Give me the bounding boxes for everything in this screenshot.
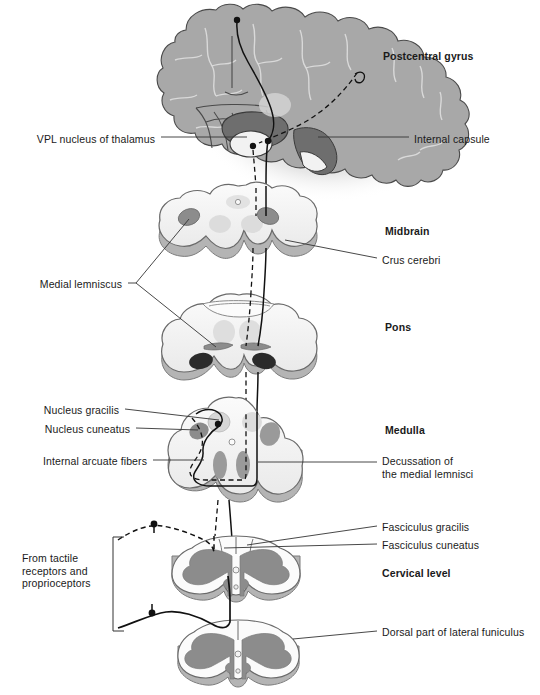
nucleus-gracilis-mirror — [242, 412, 262, 432]
tract-dashed-medulla-to-cord — [215, 500, 218, 536]
pontine-nucleus-right — [239, 320, 261, 344]
pyramid-left — [213, 451, 227, 479]
midbrain-section — [159, 182, 317, 292]
central-canal-upper — [233, 567, 239, 573]
pontine-nucleus-left — [213, 320, 235, 344]
vpl-synapse-dot-dashed — [250, 143, 256, 149]
label-internal-arcuate-fibers: Internal arcuate fibers — [0, 455, 147, 468]
label-vpl-nucleus: VPL nucleus of thalamus — [0, 133, 155, 146]
label-fasciculus-cuneatus: Fasciculus cuneatus — [382, 539, 479, 552]
label-midbrain: Midbrain — [385, 225, 430, 238]
label-medial-lemniscus: Medial lemniscus — [0, 278, 122, 291]
anterior-fissure-vessel-lower — [236, 669, 240, 673]
corona-radiata — [259, 93, 291, 117]
label-postcentral-gyrus: Postcentral gyrus — [383, 50, 473, 63]
label-pons: Pons — [385, 321, 411, 334]
label-nucleus-cuneatus: Nucleus cuneatus — [0, 423, 130, 436]
red-nucleus-left — [209, 215, 231, 233]
label-dorsal-lateral-funiculus: Dorsal part of lateral funiculus — [382, 626, 524, 639]
cervical-cord-upper — [118, 521, 300, 602]
central-canal-lower — [235, 651, 241, 657]
label-cervical-level: Cervical level — [382, 567, 451, 580]
anatomy-figure: Postcentral gyrus VPL nucleus of thalamu… — [0, 0, 540, 695]
leader-dorsal-funiculus — [293, 631, 377, 639]
gracile-synapse-dot — [215, 421, 221, 427]
dorsal-root-ganglion-dot-upper — [151, 521, 158, 528]
label-fasciculus-gracilis: Fasciculus gracilis — [382, 521, 469, 534]
leader-fasciculus-gracilis — [247, 526, 377, 545]
central-canal-medulla — [229, 439, 235, 445]
label-medulla: Medulla — [385, 424, 425, 437]
anterior-fissure-vessel-upper — [234, 585, 238, 589]
pyramid-right — [236, 451, 250, 479]
pons-section — [162, 292, 317, 412]
label-nucleus-gracilis: Nucleus gracilis — [0, 404, 119, 417]
medulla-section — [168, 397, 303, 540]
tract-solid-pons-to-medulla — [257, 372, 258, 412]
label-decussation: Decussation of the medial lemnisci — [382, 455, 473, 480]
medulla-body — [168, 397, 303, 494]
label-crus-cerebri: Crus cerebri — [382, 254, 440, 267]
tract-dashed-midbrain-to-pons — [251, 248, 253, 292]
tract-solid-midbrain-to-pons — [264, 248, 266, 292]
cerebrum-section — [157, 4, 469, 202]
tract-solid-medulla-to-cord — [229, 500, 232, 540]
pathway-diagram — [0, 0, 540, 695]
label-internal-capsule: Internal capsule — [414, 133, 490, 146]
cerebral-aqueduct — [235, 199, 240, 204]
tactile-bracket — [113, 537, 124, 631]
cortical-terminal-dot — [234, 17, 240, 23]
label-from-tactile-receptors: From tactile receptors and proprioceptor… — [22, 552, 91, 590]
